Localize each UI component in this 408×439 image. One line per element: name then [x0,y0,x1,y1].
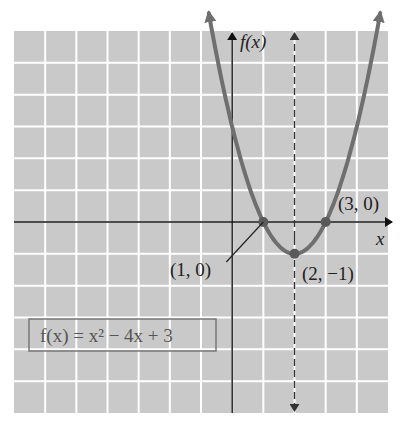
equation-label: f(x) = x² − 4x + 3 [40,325,173,347]
y-axis-label: f(x) [240,31,266,53]
parabola-chart: f(x) x (1, 0) (3, 0) (2, −1) f(x) = x² −… [0,0,408,439]
point-label-3-0: (3, 0) [338,193,379,215]
point-label-1-0: (1, 0) [170,259,211,281]
point-label-2-neg1: (2, −1) [302,263,354,285]
x-axis-label: x [375,228,385,249]
